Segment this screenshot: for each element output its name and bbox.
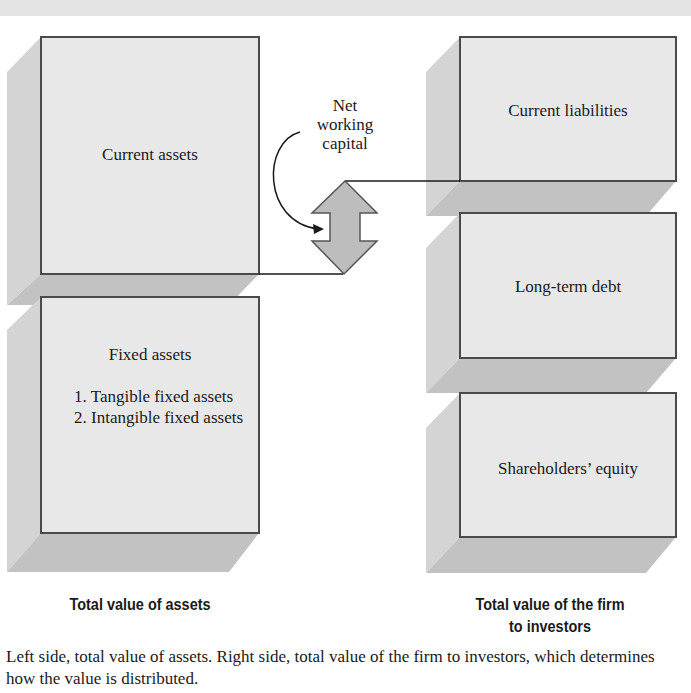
net-working-capital-label: Net working capital <box>300 96 390 153</box>
nwc-line-3: capital <box>300 134 390 153</box>
total-firm-value-label: Total value of the firm to investors <box>448 594 652 638</box>
figure-caption: Left side, total value of assets. Right … <box>6 646 686 690</box>
fixed-assets-item-tangible: 1. Tangible fixed assets <box>74 386 254 407</box>
total-firm-value-line-1: Total value of the firm <box>448 594 652 616</box>
total-firm-value-line-2: to investors <box>448 616 652 638</box>
fixed-assets-label: Fixed assets <box>41 345 259 365</box>
fixed-assets-list: 1. Tangible fixed assets 2. Intangible f… <box>74 386 254 428</box>
current-assets-label: Current assets <box>41 145 259 165</box>
long-term-debt-label: Long-term debt <box>460 277 676 297</box>
pointer-arrowhead-icon <box>313 224 324 234</box>
nwc-line-1: Net <box>300 96 390 115</box>
current-liabilities-label: Current liabilities <box>460 101 676 121</box>
fixed-assets-item-intangible: 2. Intangible fixed assets <box>74 407 254 428</box>
shareholders-equity-label: Shareholders’ equity <box>460 459 676 479</box>
total-assets-label: Total value of assets <box>38 594 242 616</box>
double-arrow-icon <box>312 181 377 274</box>
nwc-line-2: working <box>300 115 390 134</box>
